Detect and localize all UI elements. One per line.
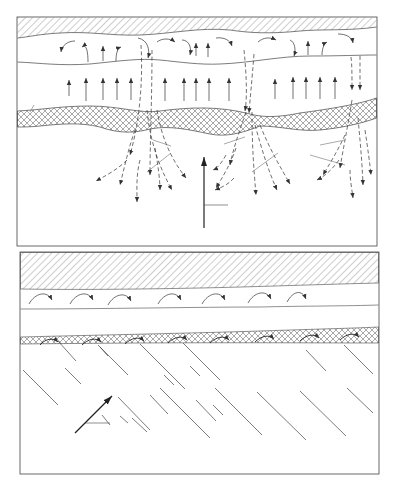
waterline	[18, 55, 377, 65]
beachridge-hatch	[18, 18, 377, 39]
longshore-arrows	[29, 293, 306, 305]
breaker-zone-hatch-b	[21, 327, 379, 344]
breaker-zone-hatch	[18, 98, 377, 135]
wave-direction-arrow	[75, 396, 112, 433]
coastal-sand-transport-diagram	[0, 0, 394, 492]
panel-b	[20, 252, 379, 474]
waterline-b	[21, 305, 379, 309]
wave-crests	[23, 341, 373, 440]
panel-a	[17, 17, 377, 246]
swash-arrows	[61, 34, 353, 62]
beachridge-hatch-b	[21, 253, 379, 290]
